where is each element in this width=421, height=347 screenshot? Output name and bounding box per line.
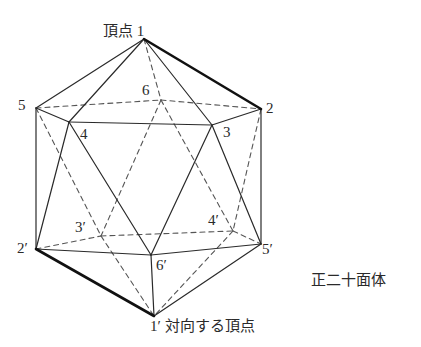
hidden-edge-5-6 — [36, 100, 161, 108]
label-vertex-4: 4 — [80, 127, 88, 142]
label-vertex-5: 5 — [18, 98, 26, 113]
hidden-edge-3p-4p — [101, 231, 233, 236]
hidden-edge-6-3p — [101, 100, 161, 236]
edge-3-6p — [151, 125, 212, 255]
edge-5p-1p — [154, 244, 261, 316]
bold-edge-2p-1p — [36, 249, 154, 316]
edge-1-3 — [144, 39, 212, 125]
edge-6p-1p — [151, 255, 154, 316]
edge-2p-6p — [36, 249, 151, 255]
icosahedron-diagram — [0, 0, 421, 347]
label-opposite-vertex: 1′ 対向する頂点 — [150, 319, 255, 334]
label-vertex-2: 2 — [266, 101, 274, 116]
edge-5-4 — [36, 108, 69, 122]
shape-name: 正二十面体 — [311, 273, 386, 288]
hidden-edge-2p-3p — [36, 236, 101, 249]
label-vertex-4-prime: 4′ — [208, 213, 219, 228]
label-vertex-6-prime: 6′ — [156, 258, 167, 273]
edge-4-3 — [69, 122, 212, 125]
label-vertex-5-prime: 5′ — [262, 242, 273, 257]
edge-3-2 — [212, 109, 261, 125]
hidden-edges — [36, 39, 261, 316]
visible-edges — [36, 39, 261, 316]
hidden-edge-2-4p — [233, 109, 261, 231]
label-top-vertex: 頂点 1 — [103, 24, 144, 39]
label-vertex-3-prime: 3′ — [75, 220, 86, 235]
label-vertex-2-prime: 2′ — [17, 241, 28, 256]
edge-6p-5p — [151, 244, 261, 255]
label-vertex-3: 3 — [223, 125, 231, 140]
edge-3-5p — [212, 125, 261, 244]
label-vertex-6: 6 — [142, 83, 150, 98]
hidden-edge-4p-1p — [154, 231, 233, 316]
bold-edge-1-2 — [144, 39, 261, 109]
hidden-edge-5-3p — [36, 108, 101, 236]
edge-1-5 — [36, 39, 144, 108]
highlighted-edges — [36, 39, 261, 316]
edge-1-4 — [69, 39, 144, 122]
